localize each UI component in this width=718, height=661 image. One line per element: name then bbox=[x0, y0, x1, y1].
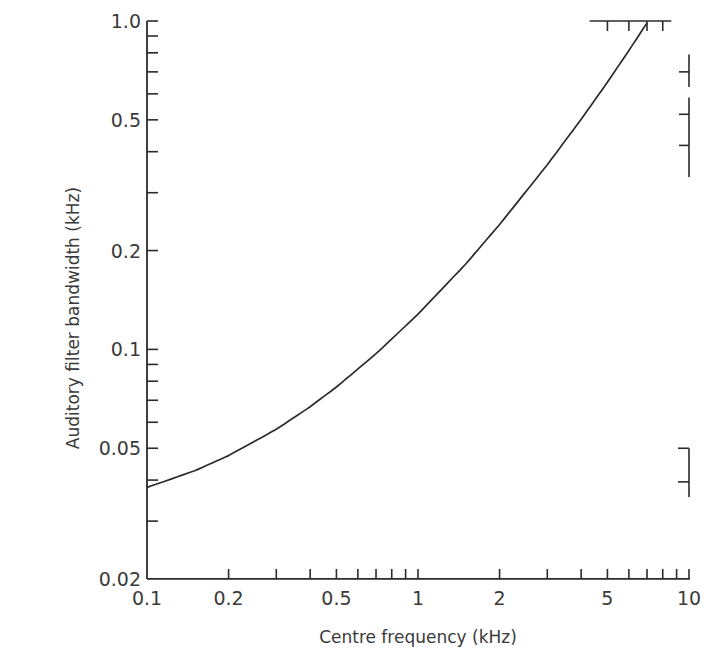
x-tick-label: 5 bbox=[601, 587, 613, 609]
y-axis-title: Auditory filter bandwidth (kHz) bbox=[63, 187, 83, 449]
x-tick-label: 0.2 bbox=[213, 587, 243, 609]
x-tick-label: 0.5 bbox=[321, 587, 351, 609]
y-tick-label: 0.05 bbox=[99, 437, 141, 459]
x-tick-label: 0.1 bbox=[132, 587, 162, 609]
y-tick-label: 0.1 bbox=[111, 338, 141, 360]
y-axis: 1.00.50.20.10.050.02 bbox=[99, 10, 158, 590]
chart: 1.00.50.20.10.050.02 0.10.20.512510 Cent… bbox=[0, 0, 718, 661]
x-tick-label: 10 bbox=[677, 587, 701, 609]
y-tick-label: 0.2 bbox=[111, 240, 141, 262]
x-tick-label: 2 bbox=[494, 587, 506, 609]
plot-series bbox=[147, 23, 647, 488]
x-tick-label: 1 bbox=[412, 587, 424, 609]
y-tick-label: 0.5 bbox=[111, 109, 141, 131]
y-tick-label: 1.0 bbox=[111, 10, 141, 32]
x-axis: 0.10.20.512510 bbox=[132, 569, 701, 609]
series-line bbox=[147, 23, 647, 488]
scale-fragments bbox=[590, 21, 689, 497]
x-axis-title: Centre frequency (kHz) bbox=[319, 627, 517, 647]
